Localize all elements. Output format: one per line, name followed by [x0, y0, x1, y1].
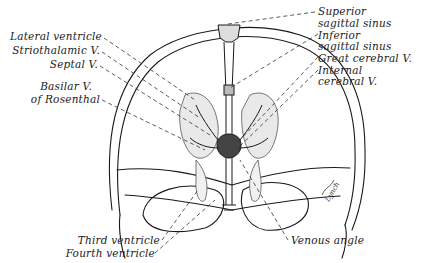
- label-superior-sagittal-line2: sagittal sinus: [318, 18, 392, 29]
- label-third-ventricle: Third ventricle: [78, 235, 160, 246]
- label-basilar-v-line1: Basilar V.: [40, 81, 92, 92]
- label-basilar-v-line2: of Rosenthal: [31, 94, 100, 105]
- vein-cluster: [217, 134, 241, 158]
- label-inferior-sagittal-line2: sagittal sinus: [318, 41, 392, 52]
- label-superior-sagittal-line1: Superior: [318, 6, 366, 17]
- label-internal-cerebral-line2: cerebral V.: [318, 76, 377, 87]
- left-lateral-ventricle-shape: [180, 93, 219, 158]
- left-orbit: [143, 186, 224, 231]
- label-fourth-ventricle: Fourth ventricle: [66, 248, 155, 259]
- label-venous-angle: Venous angle: [291, 235, 364, 246]
- label-striothalamic-v: Striothalamic V.: [12, 45, 100, 56]
- label-lateral-ventricle: Lateral ventricle: [10, 31, 102, 42]
- label-great-cerebral-v: Great cerebral V.: [318, 53, 412, 64]
- label-septal-v: Septal V.: [50, 59, 98, 70]
- right-lateral-ventricle-shape: [242, 93, 279, 158]
- superior-sagittal-sinus: [218, 25, 240, 42]
